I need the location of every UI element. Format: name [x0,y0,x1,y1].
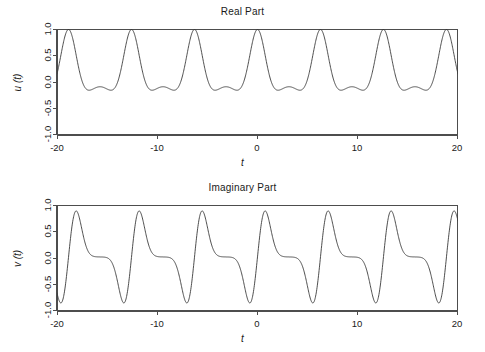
x-tick-label: 20 [437,142,477,153]
x-tick-label: 10 [337,142,377,153]
y-axis-label-real: u (t) [12,65,23,101]
y-tick-label: 1.0 [43,191,53,219]
y-tick-label: 1.0 [43,15,53,43]
y-axis-label-imaginary: v (t) [12,241,23,277]
x-axis-real: -20 -10 0 10 20 [57,135,458,141]
x-axis-label-imaginary: t [0,333,485,344]
x-tick-label: 0 [237,142,277,153]
panel-real-part: Real Part 1.0 0.5 0.0 -0.5 -1.0 u (t) [0,0,485,176]
panel-imaginary-part: Imaginary Part 1.0 0.5 0.0 -0.5 -1.0 v (… [0,176,485,352]
x-tick-mark [157,135,158,139]
y-tick-label: 0.5 [43,41,53,69]
x-tick-mark [357,311,358,315]
y-tick-label: 0.0 [43,244,53,272]
x-tick-mark [357,135,358,139]
x-tick-mark [57,311,58,315]
x-tick-mark [257,135,258,139]
x-tick-mark [457,135,458,139]
x-tick-label: 20 [437,318,477,329]
x-tick-label: -10 [137,142,177,153]
line-series-u-of-t [57,29,458,135]
panel-title-imaginary: Imaginary Part [0,182,485,194]
y-tick-label: -0.5 [43,94,53,122]
x-tick-label: 0 [237,318,277,329]
y-tick-label: -0.5 [43,270,53,298]
y-tick-label: 0.0 [43,68,53,96]
x-tick-label: -20 [37,142,77,153]
plot-area-imaginary [57,205,458,311]
x-tick-mark [457,311,458,315]
figure-complex-waveforms: Real Part 1.0 0.5 0.0 -0.5 -1.0 u (t) [0,0,485,352]
x-tick-label: -10 [137,318,177,329]
x-tick-mark [257,311,258,315]
x-tick-mark [57,135,58,139]
y-tick-label: 0.5 [43,217,53,245]
plot-area-real [57,29,458,135]
panel-title-real: Real Part [0,6,485,18]
x-tick-label: -20 [37,318,77,329]
x-tick-mark [157,311,158,315]
x-axis-label-real: t [0,157,485,168]
line-series-v-of-t [57,205,458,311]
x-axis-imaginary: -20 -10 0 10 20 [57,311,458,317]
x-tick-label: 10 [337,318,377,329]
